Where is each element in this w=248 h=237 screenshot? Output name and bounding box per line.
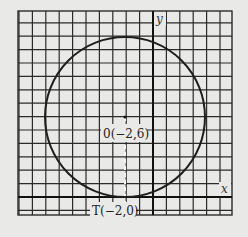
center-point — [124, 116, 127, 119]
y-axis-label: y — [155, 12, 163, 26]
tangent-point-label: T(−2,0) — [92, 204, 139, 218]
center-label: 0(−2,6) — [103, 127, 149, 141]
x-axis-label: x — [221, 182, 228, 196]
circle-diagram: 0(−2,6) T(−2,0) y x — [0, 0, 248, 237]
